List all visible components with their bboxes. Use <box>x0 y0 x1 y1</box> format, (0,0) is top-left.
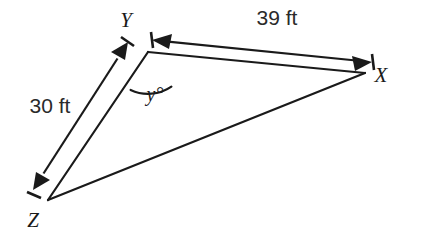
side-YZ <box>48 52 148 200</box>
dimension-30ft-arrowhead-top <box>111 42 128 60</box>
dimension-39ft-arrowhead-left <box>152 34 172 49</box>
dimension-39ft-arrowhead-right <box>352 56 372 71</box>
dimension-30ft-arrowhead-bottom <box>33 172 50 190</box>
vertex-label-Y: Y <box>120 8 134 32</box>
measure-label-39ft: 39 ft <box>257 6 298 29</box>
dimension-30ft-tick-bottom <box>27 192 41 198</box>
geometry-canvas: 39 ft 30 ft y° Y X Z <box>0 0 425 249</box>
dimension-39ft-line <box>163 41 361 61</box>
triangle-xyz <box>48 52 365 200</box>
angle-label-y: y° <box>145 83 164 106</box>
vertex-label-X: X <box>374 63 389 87</box>
dimension-39ft-tick-left <box>151 32 153 48</box>
dimension-39ft <box>151 32 374 71</box>
measure-label-30ft: 30 ft <box>30 94 71 117</box>
side-YX <box>148 52 365 73</box>
geometry-diagram: 39 ft 30 ft y° Y X Z <box>0 0 425 249</box>
dimension-30ft <box>27 37 134 198</box>
vertex-label-Z: Z <box>27 208 39 232</box>
